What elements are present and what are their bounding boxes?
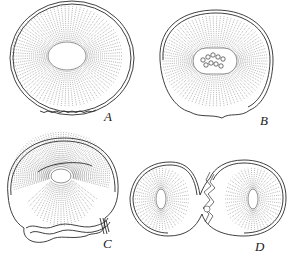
panel-label-d: D	[255, 240, 264, 253]
panel-label-a: A	[104, 110, 112, 123]
panel-c-nucleus	[51, 169, 71, 183]
panel-c-cell	[8, 131, 119, 242]
panel-b-cell	[160, 10, 273, 118]
panel-d-two-cells	[130, 160, 286, 236]
figure-canvas	[0, 0, 294, 259]
panel-label-c: C	[103, 237, 112, 250]
panel-d-left-nucleus	[156, 189, 166, 209]
panel-a-cell	[10, 1, 134, 115]
panel-b-nucleus	[193, 48, 237, 74]
panel-d-right-nucleus	[248, 189, 258, 209]
cell-division-figure: A B C D	[0, 0, 294, 259]
panel-a-nucleus	[48, 42, 86, 70]
panel-label-b: B	[260, 114, 268, 127]
